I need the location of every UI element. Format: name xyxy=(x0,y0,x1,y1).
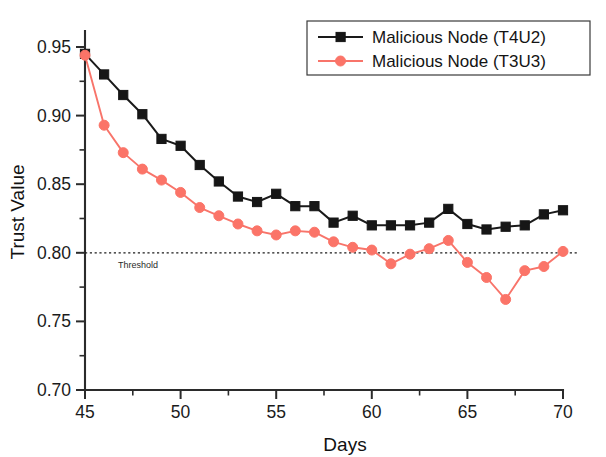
data-point xyxy=(233,192,242,201)
data-point xyxy=(233,219,243,229)
data-point xyxy=(156,175,166,185)
y-tick-label: 0.70 xyxy=(37,380,71,400)
data-point xyxy=(271,230,281,240)
x-axis-title: Days xyxy=(323,434,366,455)
y-tick-label: 0.75 xyxy=(37,311,71,331)
data-point xyxy=(176,141,185,150)
data-point xyxy=(539,262,549,272)
data-point xyxy=(462,257,472,267)
data-point xyxy=(558,206,567,215)
chart-legend: Malicious Node (T4U2)Malicious Node (T3U… xyxy=(307,21,590,75)
data-point xyxy=(291,202,300,211)
data-point xyxy=(176,187,186,197)
y-tick-label: 0.90 xyxy=(37,106,71,126)
trust-value-line-chart: 0.700.750.800.850.900.95 455055606570 Th… xyxy=(0,0,606,457)
data-point xyxy=(309,227,319,237)
data-point xyxy=(558,246,568,256)
data-point xyxy=(329,218,338,227)
data-point xyxy=(137,164,147,174)
legend-marker-circle xyxy=(336,56,346,66)
data-point xyxy=(310,202,319,211)
data-point xyxy=(118,148,128,158)
data-point xyxy=(443,235,453,245)
data-point xyxy=(252,197,261,206)
x-tick-label: 55 xyxy=(266,402,285,422)
data-point xyxy=(425,218,434,227)
data-point xyxy=(80,50,90,60)
data-point xyxy=(482,225,491,234)
data-point xyxy=(290,226,300,236)
data-point xyxy=(444,204,453,213)
data-point xyxy=(482,272,492,282)
data-point xyxy=(100,70,109,79)
data-point xyxy=(99,120,109,130)
data-point xyxy=(520,266,530,276)
data-point xyxy=(195,203,205,213)
chart-figure: 0.700.750.800.850.900.95 455055606570 Th… xyxy=(0,0,606,457)
data-point xyxy=(214,211,224,221)
data-point xyxy=(348,211,357,220)
x-tick-label: 65 xyxy=(458,402,477,422)
legend-label: Malicious Node (T4U2) xyxy=(372,28,546,47)
data-point xyxy=(214,177,223,186)
data-point xyxy=(405,249,415,259)
x-tick-label: 50 xyxy=(171,402,191,422)
data-point xyxy=(195,160,204,169)
data-point xyxy=(252,226,262,236)
data-point xyxy=(367,221,376,230)
data-point xyxy=(329,237,339,247)
x-tick-label: 60 xyxy=(362,402,382,422)
data-point xyxy=(138,110,147,119)
threshold-label: Threshold xyxy=(118,260,158,270)
data-point xyxy=(157,134,166,143)
data-point xyxy=(272,189,281,198)
data-point xyxy=(367,245,377,255)
data-point xyxy=(539,210,548,219)
data-point xyxy=(119,90,128,99)
y-axis-title: Trust Value xyxy=(7,164,28,259)
data-point xyxy=(501,294,511,304)
data-point xyxy=(520,221,529,230)
y-tick-label: 0.95 xyxy=(37,37,71,57)
data-point xyxy=(463,219,472,228)
y-tick-label: 0.85 xyxy=(37,174,71,194)
data-point xyxy=(348,242,358,252)
data-point xyxy=(405,221,414,230)
x-tick-label: 70 xyxy=(553,402,573,422)
data-point xyxy=(501,222,510,231)
y-tick-label: 0.80 xyxy=(37,243,71,263)
legend-marker-square xyxy=(336,32,345,41)
legend-label: Malicious Node (T3U3) xyxy=(372,52,546,71)
data-point xyxy=(386,259,396,269)
x-tick-label: 45 xyxy=(75,402,94,422)
data-point xyxy=(386,221,395,230)
data-point xyxy=(424,244,434,254)
